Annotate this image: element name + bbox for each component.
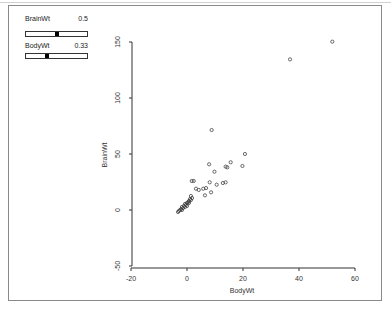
data-point [210, 128, 213, 131]
y-tick-label: 50 [114, 150, 121, 158]
y-tick-label: 150 [114, 36, 121, 48]
data-point [215, 183, 218, 186]
x-tick-label: 40 [295, 275, 303, 282]
data-point [229, 161, 232, 164]
y-tick-label: 100 [114, 92, 121, 104]
data-points [176, 40, 333, 214]
x-tick-label: 60 [351, 275, 359, 282]
data-point [241, 164, 244, 167]
data-point [197, 188, 200, 191]
data-point [208, 163, 211, 166]
x-tick-label: -20 [126, 275, 136, 282]
data-point [288, 58, 291, 61]
data-point [213, 170, 216, 173]
scatter-plot: -200204060-50050100150 BodyWt BrainWt [0, 0, 391, 310]
y-axis-label: BrainWt [101, 143, 108, 168]
y-tick-label: -50 [114, 261, 121, 271]
axes: -200204060-50050100150 [114, 36, 359, 282]
x-tick-label: 0 [185, 275, 189, 282]
data-point [209, 191, 212, 194]
x-axis-label: BodyWt [230, 287, 255, 295]
x-tick-label: 20 [239, 275, 247, 282]
data-point [331, 40, 334, 43]
data-point [203, 194, 206, 197]
data-point [208, 181, 211, 184]
data-point [243, 152, 246, 155]
y-tick-label: 0 [114, 208, 121, 212]
